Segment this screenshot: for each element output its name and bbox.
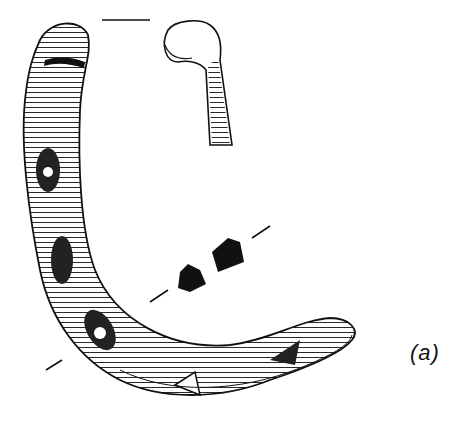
side-profile-view xyxy=(102,20,232,145)
panel-label: (a) xyxy=(410,340,440,366)
artifact-illustration xyxy=(0,0,469,423)
horseshoe-main-view xyxy=(24,24,355,395)
nail-hole xyxy=(51,236,73,284)
